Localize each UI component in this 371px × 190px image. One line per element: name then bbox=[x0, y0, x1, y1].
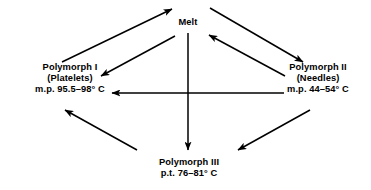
node-polymorph-2-transition: m.p. 44–54° C bbox=[265, 84, 371, 95]
node-melt: Melt bbox=[163, 17, 213, 28]
edge-melt-to-polymorph2 bbox=[210, 8, 303, 62]
node-polymorph-3-transition: p.t. 76–81° C bbox=[130, 168, 248, 179]
node-polymorph-1-transition: m.p. 95.5–98° C bbox=[10, 84, 130, 95]
node-polymorph-1-habit: (Platelets) bbox=[10, 73, 130, 84]
edge-polymorph2-to-polymorph3 bbox=[238, 110, 310, 150]
node-polymorph-2-name: Polymorph II bbox=[265, 62, 371, 73]
node-polymorph-3-name: Polymorph III bbox=[130, 157, 248, 168]
edge-polymorph1-to-melt bbox=[62, 9, 172, 62]
node-polymorph-3: Polymorph III p.t. 76–81° C bbox=[130, 157, 248, 179]
node-polymorph-1-name: Polymorph I bbox=[10, 62, 130, 73]
node-polymorph-2: Polymorph II (Needles) m.p. 44–54° C bbox=[265, 62, 371, 95]
edge-polymorph3-to-polymorph1 bbox=[65, 110, 137, 150]
node-polymorph-2-habit: (Needles) bbox=[265, 73, 371, 84]
polymorph-transformation-diagram: Melt Polymorph I (Platelets) m.p. 95.5–9… bbox=[0, 0, 371, 190]
node-polymorph-1: Polymorph I (Platelets) m.p. 95.5–98° C bbox=[10, 62, 130, 95]
node-melt-label: Melt bbox=[163, 17, 213, 28]
